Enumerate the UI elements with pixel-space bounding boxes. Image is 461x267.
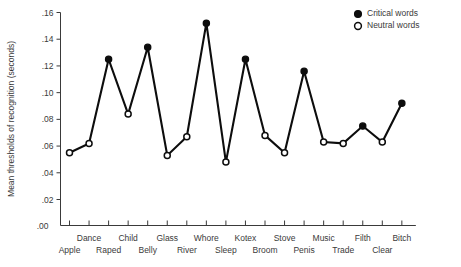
svg-text:.02: .02 [42,195,54,205]
data-series [67,20,405,165]
svg-text:.10: .10 [42,88,54,98]
data-point-river [184,134,190,140]
data-point-glass [164,152,170,158]
x-tick-label: Penis [293,245,314,255]
x-tick-label: Music [313,233,336,243]
data-point-whore [203,20,209,26]
data-point-filth [360,123,366,129]
data-point-bitch [399,100,405,106]
svg-text:.14: .14 [42,34,54,44]
chart-legend: Critical wordsNeutral words [355,8,420,30]
data-point-clear [379,139,385,145]
legend-neutral-label: Neutral words [367,20,419,30]
svg-text:.00: .00 [37,221,49,231]
x-tick-label: Clear [372,245,392,255]
data-point-stove [282,150,288,156]
legend-neutral-marker-icon [355,23,362,30]
data-point-sleep [223,159,229,165]
x-tick-label: Dance [77,233,102,243]
legend-critical-label: Critical words [367,8,418,18]
legend-critical-marker-icon [355,11,362,18]
data-point-kotex [242,56,248,62]
x-tick-label: Bitch [392,233,411,243]
chart-plot-area: .00.02.04.06.08.10.12.14.16 AppleDanceRa… [0,0,461,267]
svg-text:.12: .12 [42,61,54,71]
svg-text:.06: .06 [42,141,54,151]
x-axis: AppleDanceRapedChildBellyGlassRiverWhore… [59,221,416,255]
data-point-penis [301,68,307,74]
y-axis: .00.02.04.06.08.10.12.14.16 [37,8,61,231]
data-point-music [321,139,327,145]
recognition-threshold-chart: .00.02.04.06.08.10.12.14.16 AppleDanceRa… [0,0,461,267]
x-tick-label: Whore [194,233,219,243]
x-tick-label: Filth [355,233,371,243]
x-tick-label: Child [118,233,138,243]
svg-text:.16: .16 [42,8,54,18]
x-tick-label: Belly [138,245,157,255]
x-tick-label: Raped [96,245,121,255]
data-point-belly [145,44,151,50]
svg-text:.08: .08 [42,114,54,124]
data-point-trade [340,140,346,146]
data-point-raped [106,56,112,62]
data-point-broom [262,132,268,138]
x-tick-label: Broom [252,245,277,255]
x-tick-label: River [177,245,197,255]
data-point-dance [86,140,92,146]
x-tick-label: Sleep [215,245,237,255]
x-tick-label: Kotex [235,233,257,243]
x-tick-label: Stove [274,233,296,243]
x-tick-label: Apple [59,245,81,255]
data-point-child [125,111,131,117]
data-point-apple [67,150,73,156]
x-tick-label: Trade [332,245,354,255]
y-axis-title: Mean thresholds of recognition (seconds) [6,41,16,197]
svg-text:.04: .04 [42,168,54,178]
x-tick-label: Glass [156,233,178,243]
